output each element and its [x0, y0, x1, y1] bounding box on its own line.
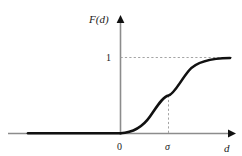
figure-container: F(d) d 1 0 σ [0, 0, 242, 156]
y-axis-label: F(d) [88, 13, 109, 26]
origin-label: 0 [117, 141, 122, 152]
y-tick-label-1: 1 [106, 52, 111, 63]
sigmoid-plot: F(d) d 1 0 σ [0, 0, 242, 156]
x-axis-label: d [224, 142, 230, 154]
